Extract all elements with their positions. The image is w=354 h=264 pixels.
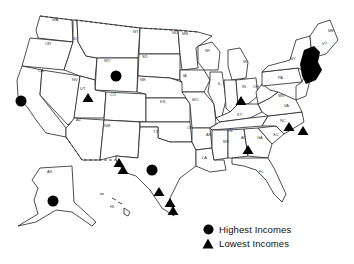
highest-income-marker [111,71,122,82]
state-ak [18,166,96,226]
state-label-la: LA [202,155,207,160]
state-label-ks: KS [160,99,166,104]
state-label-co: CO [110,92,116,97]
state-label-nd: ND [172,30,178,35]
state-mi [228,48,248,80]
state-fl [232,158,286,202]
state-label-al: AL [241,135,247,140]
state-label-ak: AK [47,169,53,174]
state-label-sc: SC [273,132,279,137]
state-label-mo: MO [192,97,198,102]
state-label-id: ID [73,36,77,41]
legend: Highest Incomes Lowest Incomes [202,222,291,250]
state-ms [212,130,228,160]
state-label-wi: WI [205,48,210,53]
state-outlines [17,16,338,226]
state-label-in: IN [242,84,246,89]
state-label-mn: MN [182,31,188,36]
state-label-tx: TX [153,129,158,134]
state-az [66,118,104,160]
triangle-icon [202,237,214,249]
state-label-nc: NC [280,118,286,123]
state-label-va: VA [284,103,289,108]
highest-income-marker [48,196,59,207]
state-label-wy: WY [104,58,111,63]
state-label-sd: SD [142,54,148,59]
us-map: WAORIDMTNDMNWYSDCANVUTCONEIAKSMOILWIMIIN… [0,0,354,264]
state-label-ok: OK [187,125,193,130]
state-label-ar: AR [206,132,212,137]
state-label-ga: GA [257,135,263,140]
state-wi [198,42,220,70]
state-label-ny: NY [290,56,296,61]
state-label-ky: KY [237,112,243,117]
state-ks [146,98,190,122]
state-label-ia: IA [183,73,187,78]
circle-icon [202,223,214,235]
state-label-nm: NM [104,123,110,128]
state-label-ut: UT [80,86,86,91]
state-hi [100,194,130,216]
legend-highest-label: Highest Incomes [219,224,291,235]
state-label-fl: FL [259,169,264,174]
state-label-me: ME [328,28,334,33]
legend-lowest-label: Lowest Incomes [219,238,289,249]
state-label-wv: WV [278,93,285,98]
state-label-ne: NE [140,77,146,82]
state-label-oh: OH [253,84,259,89]
state-label-or: OR [45,41,51,46]
state-mt [77,20,140,58]
legend-highest: Highest Incomes [202,222,291,236]
state-label-ca: CA [38,68,44,73]
state-label-wa: WA [52,17,59,22]
state-label-az: AZ [76,117,82,122]
state-label-mt: MT [133,29,139,34]
state-label-vt: VT [322,41,328,46]
lowest-income-marker [298,126,309,135]
state-label-ms: MS [223,139,229,144]
highest-income-marker [16,96,27,107]
highest-income-marker [147,165,158,176]
legend-lowest: Lowest Incomes [202,236,291,250]
state-label-mi: MI [243,59,247,64]
state-label-tn: TN [227,128,232,133]
state-label-hi: HI [110,204,114,209]
state-label-nv: NV [72,77,78,82]
state-label-pa: PA [278,75,283,80]
